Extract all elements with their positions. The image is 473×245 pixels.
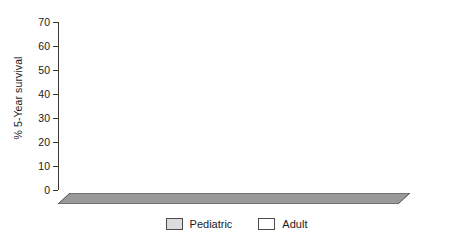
y-axis-title: % 5-Year survival [12,28,24,168]
y-tick-label-10: 10 [38,160,50,172]
chart-floor [58,190,410,201]
y-tick-30 [53,118,58,119]
legend-item-pediatric[interactable]: Pediatric [166,218,233,230]
legend-label-adult: Adult [282,218,307,230]
floor-top [58,190,410,201]
plot-area: 010203040506070 [58,18,410,194]
legend-swatch-adult [258,218,275,230]
y-tick-20 [53,142,58,143]
legend-item-adult[interactable]: Adult [258,218,307,230]
chart-root: % 5-Year survival 010203040506070 Pediat… [0,0,473,245]
y-tick-label-50: 50 [38,64,50,76]
y-axis-line [58,22,59,190]
y-tick-label-0: 0 [44,184,50,196]
y-tick-70 [53,22,58,23]
y-tick-label-70: 70 [38,16,50,28]
y-tick-10 [53,166,58,167]
legend: Pediatric Adult [0,218,473,230]
y-tick-label-40: 40 [38,88,50,100]
y-tick-label-30: 30 [38,112,50,124]
y-tick-label-60: 60 [38,40,50,52]
y-tick-60 [53,46,58,47]
legend-label-pediatric: Pediatric [190,218,233,230]
legend-swatch-pediatric [166,218,183,230]
y-tick-50 [53,70,58,71]
y-tick-label-20: 20 [38,136,50,148]
y-tick-40 [53,94,58,95]
floor-polygon-svg [58,193,410,204]
